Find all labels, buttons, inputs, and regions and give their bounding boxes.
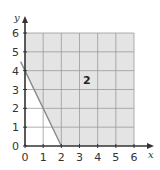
y-tick-label: 4 [12, 65, 19, 78]
y-axis-arrow [22, 16, 28, 23]
region-label: 2 [83, 74, 91, 87]
x-tick-label: 2 [58, 151, 65, 164]
x-tick-label: 1 [40, 151, 47, 164]
y-tick-label: 0 [12, 140, 19, 153]
x-tick-label: 5 [112, 151, 119, 164]
x-tick-label: 4 [94, 151, 101, 164]
y-tick-label: 1 [12, 121, 19, 134]
y-tick-label: 5 [12, 46, 19, 59]
x-tick-label: 3 [76, 151, 83, 164]
y-tick-label: 2 [12, 102, 19, 115]
x-axis-label: x [148, 149, 154, 160]
x-tick-label: 0 [22, 151, 29, 164]
x-tick-label: 6 [131, 151, 138, 164]
y-tick-label: 6 [12, 27, 19, 40]
y-tick-label: 3 [12, 84, 19, 97]
y-axis-label: y [13, 12, 20, 23]
chart-svg: 01234560123456 x y 2 [0, 0, 160, 170]
